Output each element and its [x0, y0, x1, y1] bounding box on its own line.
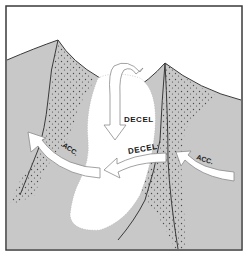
label-decel-top: DECEL [124, 115, 154, 124]
canyon-wind-diagram: DECEL DECEL ACC. ACC. [0, 0, 248, 256]
diagram-frame: DECEL DECEL ACC. ACC. [0, 0, 248, 256]
